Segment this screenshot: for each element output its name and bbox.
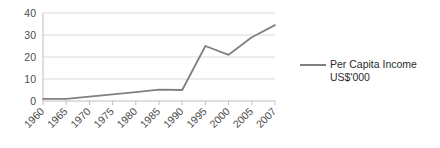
x-tick-label-2000: 2000 <box>207 105 232 130</box>
line-chart: 40 30 20 10 0 1960 1965 1970 1975 1980 1… <box>0 0 440 148</box>
x-tick-label-1990: 1990 <box>161 105 186 130</box>
x-tick-label-1975: 1975 <box>91 105 116 130</box>
y-tick-label-0: 0 <box>30 95 36 107</box>
y-tick-label-30: 30 <box>24 29 36 41</box>
series-line-per-capita-income <box>43 25 275 99</box>
y-tick-label-10: 10 <box>24 73 36 85</box>
legend-label-line2: US$'000 <box>330 71 370 84</box>
x-axis-labels: 1960 1965 1970 1975 1980 1985 1990 1995 … <box>21 105 278 130</box>
x-tick-label-1985: 1985 <box>137 105 162 130</box>
legend-line-swatch <box>300 64 326 66</box>
chart-container: 40 30 20 10 0 1960 1965 1970 1975 1980 1… <box>0 0 440 148</box>
y-axis-labels: 40 30 20 10 0 <box>24 7 36 107</box>
y-tick-label-40: 40 <box>24 7 36 19</box>
x-tick-label-1965: 1965 <box>45 105 70 130</box>
x-tick-label-1980: 1980 <box>114 105 139 130</box>
x-tick-label-1995: 1995 <box>184 105 209 130</box>
x-tick-label-1960: 1960 <box>21 105 46 130</box>
x-tick-label-2007: 2007 <box>253 105 278 130</box>
x-tick-label-2005: 2005 <box>230 105 255 130</box>
y-tick-label-20: 20 <box>24 51 36 63</box>
x-tick-label-1970: 1970 <box>68 105 93 130</box>
x-axis-ticks <box>43 101 275 105</box>
legend-label-line1: Per Capita Income <box>330 58 417 71</box>
